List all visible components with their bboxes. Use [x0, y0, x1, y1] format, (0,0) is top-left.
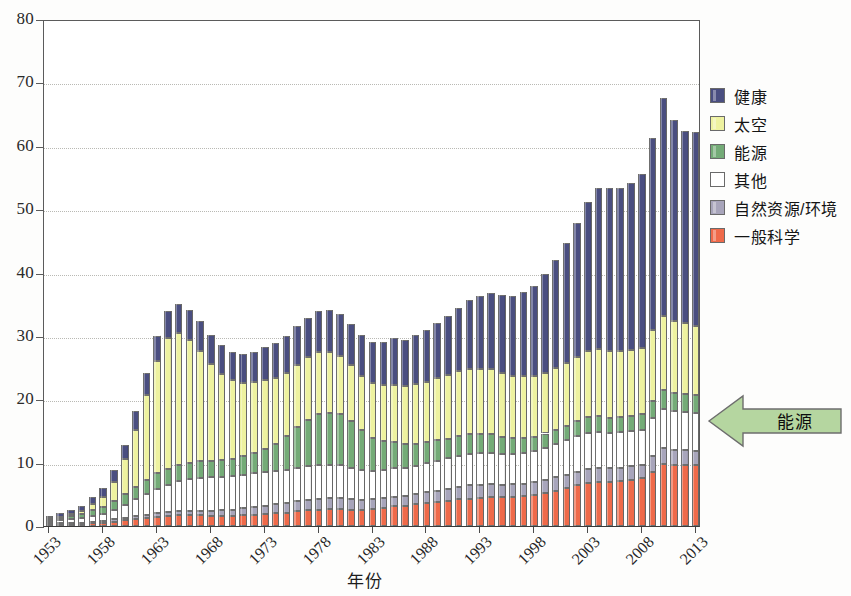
bar-segment-other: [121, 505, 129, 518]
bar-segment-space: [283, 373, 291, 436]
bar-segment-general_science: [164, 516, 172, 526]
bar-column: [121, 445, 129, 526]
bar-segment-space: [89, 504, 97, 510]
bar-segment-natural_resources_environment: [99, 521, 107, 523]
bar-segment-space: [412, 384, 420, 444]
bar-segment-health: [541, 274, 549, 372]
bar-segment-other: [326, 465, 334, 499]
bar-segment-general_science: [476, 498, 484, 526]
bar-segment-space: [541, 373, 549, 434]
x-tick-mark: [425, 527, 426, 533]
bar-segment-natural_resources_environment: [196, 511, 204, 515]
bar-segment-natural_resources_environment: [143, 515, 151, 518]
bar-segment-general_science: [121, 520, 129, 526]
bar-segment-space: [563, 363, 571, 426]
bar-segment-natural_resources_environment: [487, 484, 495, 497]
chart-figure: 01020304050607080 1953195819631968197319…: [0, 0, 851, 596]
bar-column: [433, 323, 441, 526]
bar-segment-health: [78, 506, 86, 511]
bar-column: [315, 311, 323, 526]
bar-segment-energy: [573, 421, 581, 436]
bar-segment-space: [196, 351, 204, 461]
bar-segment-general_science: [304, 510, 312, 526]
x-tick-label: 1993: [446, 533, 495, 582]
bar-segment-energy: [99, 507, 107, 514]
y-tick-label: 80: [0, 9, 34, 29]
bar-segment-energy: [466, 434, 474, 454]
bar-segment-space: [229, 380, 237, 459]
bar-segment-energy: [196, 461, 204, 477]
bar-column: [412, 335, 420, 526]
bar-segment-space: [638, 348, 646, 415]
bar-segment-health: [121, 445, 129, 460]
bar-segment-health: [401, 340, 409, 386]
bar-segment-general_science: [250, 515, 258, 526]
bar-segment-energy: [455, 436, 463, 456]
bar-segment-space: [304, 357, 312, 419]
bar-segment-health: [584, 202, 592, 351]
bar-segment-health: [563, 243, 571, 363]
bar-segment-energy: [315, 414, 323, 465]
bar-segment-energy: [433, 440, 441, 460]
bar-segment-natural_resources_environment: [476, 485, 484, 498]
bar-segment-energy: [541, 434, 549, 449]
bar-segment-natural_resources_environment: [401, 496, 409, 506]
bar-segment-other: [606, 433, 614, 468]
bar-segment-other: [239, 475, 247, 509]
bar-column: [573, 223, 581, 526]
bar-segment-health: [616, 188, 624, 352]
bar-segment-energy: [283, 436, 291, 470]
bar-segment-space: [530, 376, 538, 437]
bar-segment-general_science: [143, 518, 151, 526]
bar-segment-general_science: [261, 514, 269, 526]
bar-segment-health: [670, 120, 678, 320]
bar-segment-energy: [261, 449, 269, 472]
bar-segment-natural_resources_environment: [433, 491, 441, 502]
bar-column: [552, 260, 560, 526]
bar-segment-energy: [326, 413, 334, 465]
bar-segment-health: [175, 304, 183, 333]
legend-item: 自然资源/环境: [710, 194, 838, 221]
bar-segment-other: [218, 477, 226, 511]
bar-column: [455, 308, 463, 526]
bar-segment-other: [207, 477, 215, 511]
bar-segment-general_science: [401, 506, 409, 526]
y-tick-mark: [36, 527, 44, 528]
x-tick-label: 1968: [177, 533, 226, 582]
bar-segment-health: [552, 260, 560, 368]
bar-segment-health: [336, 314, 344, 356]
bar-segment-natural_resources_environment: [649, 456, 657, 471]
bar-segment-natural_resources_environment: [692, 451, 700, 465]
bar-column: [380, 342, 388, 526]
bar-segment-general_science: [520, 496, 528, 526]
bar-segment-natural_resources_environment: [498, 485, 506, 498]
bar-segment-general_science: [369, 509, 377, 526]
bar-segment-space: [78, 511, 86, 514]
bar-segment-space: [509, 376, 517, 438]
bar-segment-health: [347, 324, 355, 365]
bar-segment-energy: [487, 434, 495, 452]
bar-segment-natural_resources_environment: [520, 484, 528, 497]
bar-segment-natural_resources_environment: [423, 492, 431, 503]
bar-segment-health: [627, 183, 635, 350]
bar-segment-energy: [660, 390, 668, 409]
bar-segment-energy: [627, 416, 635, 431]
bar-segment-space: [584, 351, 592, 417]
bar-segment-general_science: [326, 509, 334, 526]
bar-segment-health: [207, 335, 215, 364]
bar-segment-natural_resources_environment: [638, 465, 646, 478]
bar-segment-other: [153, 489, 161, 513]
bar-segment-natural_resources_environment: [347, 499, 355, 509]
bar-segment-health: [660, 98, 668, 315]
bar-segment-space: [261, 380, 269, 449]
bar-segment-space: [552, 368, 560, 429]
x-tick-mark: [318, 527, 319, 533]
bar-column: [99, 488, 107, 526]
bar-segment-general_science: [552, 491, 560, 526]
bar-segment-health: [218, 345, 226, 374]
bar-segment-energy: [476, 434, 484, 453]
bar-segment-energy: [153, 473, 161, 488]
bar-column: [250, 352, 258, 526]
bar-segment-other: [423, 463, 431, 492]
bar-segment-energy: [530, 437, 538, 452]
